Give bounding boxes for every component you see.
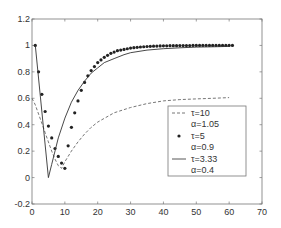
data-point [188,44,191,47]
data-point [93,65,96,68]
data-point [126,47,129,50]
data-point [60,161,63,164]
data-point [182,44,185,47]
data-point [191,44,194,47]
data-point [116,49,119,52]
data-point [119,48,122,51]
y-tick-label: -0.2 [14,199,30,209]
y-tick-label: 1 [25,40,30,50]
legend-label-1b: α=1.05 [191,119,219,129]
data-point [178,44,181,47]
legend-label-2b: α=0.9 [191,142,214,152]
x-tick-label: 70 [257,207,267,217]
data-point [175,44,178,47]
data-point [103,56,106,59]
legend-label-1a: τ=10 [191,108,210,118]
data-point [73,111,76,114]
data-point [195,44,198,47]
data-point [149,45,152,48]
data-point [40,93,43,96]
data-point [57,155,60,158]
data-point [231,44,234,47]
legend-label-3b: α=0.4 [191,165,214,175]
data-point [96,61,99,64]
data-point [44,110,47,113]
data-point [106,54,109,57]
data-point [185,44,188,47]
data-point [47,124,50,127]
data-point [99,58,102,61]
data-point [122,48,125,51]
data-point [152,45,155,48]
data-point [129,46,132,49]
data-point [80,89,83,92]
data-point [142,45,145,48]
data-point [70,126,73,129]
data-point [198,44,201,47]
x-tick-label: 50 [191,207,201,217]
data-point [50,136,53,139]
x-tick-label: 20 [93,207,103,217]
legend-marker-swatch [177,134,180,137]
data-point [172,44,175,47]
data-point [67,144,70,147]
data-point [168,44,171,47]
x-tick-label: 30 [126,207,136,217]
data-point [159,44,162,47]
x-tick-label: 60 [224,207,234,217]
legend: τ=10 α=1.05 τ=5 α=0.9 τ=3.33 α=0.4 [168,106,246,176]
data-point [162,44,165,47]
x-tick-label: 10 [60,207,70,217]
data-point [145,45,148,48]
chart: 010203040506070 -0.200.20.40.60.811.2 τ=… [0,0,281,228]
data-point [109,52,112,55]
data-point [136,46,139,49]
data-point [165,44,168,47]
data-point [90,69,93,72]
y-tick-label: 0.6 [17,93,30,103]
y-tick-label: 0.8 [17,67,30,77]
y-tick-label: 1.2 [17,14,30,24]
x-tick-label: 0 [29,207,34,217]
y-tick-label: 0.4 [17,120,30,130]
y-tick-label: 0.2 [17,146,30,156]
data-point [113,50,116,53]
data-point [155,44,158,47]
legend-label-2a: τ=5 [191,131,205,141]
x-tick-label: 40 [158,207,168,217]
data-point [76,99,79,102]
data-point [63,167,66,170]
data-point [139,45,142,48]
y-tick-label: 0 [25,173,30,183]
legend-label-3a: τ=3.33 [191,154,217,164]
data-point [132,46,135,49]
